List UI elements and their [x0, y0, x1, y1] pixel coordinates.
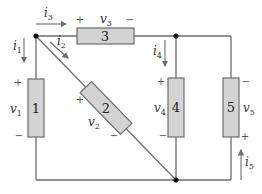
svg-text:i1: i1 — [13, 39, 22, 55]
current-i1: i1 — [13, 38, 24, 62]
element-5-minus: − — [242, 76, 250, 87]
current-i3: i3 — [36, 6, 66, 24]
element-4-plus: + — [157, 76, 165, 87]
element-1-label: 1 — [32, 101, 40, 116]
element-1-plus: + — [14, 77, 22, 88]
voltage-v3: v3 — [100, 12, 112, 28]
element-3-plus: + — [76, 14, 84, 25]
element-1-minus: − — [15, 130, 23, 141]
voltage-v4: v4 — [154, 101, 166, 117]
svg-text:i5: i5 — [245, 155, 254, 171]
svg-text:i4: i4 — [153, 44, 162, 60]
voltage-v2: v2 — [88, 115, 100, 131]
element-5-plus: + — [241, 131, 249, 142]
element-2: 2 + − v2 — [76, 82, 132, 141]
element-3-label: 3 — [101, 29, 109, 44]
wires — [36, 36, 231, 180]
current-i5: i5 — [241, 150, 254, 180]
element-4-label: 4 — [172, 100, 180, 115]
circuit-diagram: 1 + − v1 2 + − v2 3 + − v3 4 + − v4 5 − … — [0, 0, 262, 194]
node-top-right — [173, 33, 178, 38]
element-4-minus: − — [159, 130, 167, 141]
element-2-plus: + — [76, 94, 84, 105]
element-3-minus: − — [126, 14, 134, 25]
element-5-label: 5 — [227, 100, 235, 115]
element-2-label: 2 — [102, 101, 110, 116]
element-2-minus: − — [110, 130, 118, 141]
svg-text:i3: i3 — [44, 6, 53, 22]
current-i2: i2 — [50, 34, 68, 58]
element-1: 1 + − v1 — [10, 77, 44, 141]
node-top-left — [33, 33, 38, 38]
voltage-v5: v5 — [243, 101, 255, 117]
node-bottom — [173, 177, 178, 182]
element-3: 3 + − v3 — [76, 12, 134, 44]
element-5: 5 − + v5 — [223, 76, 255, 142]
element-4: 4 + − v4 — [154, 76, 184, 141]
current-i4: i4 — [153, 40, 165, 66]
voltage-v1: v1 — [10, 102, 22, 118]
